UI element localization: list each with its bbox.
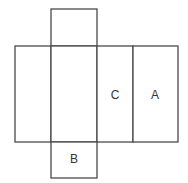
cube-net-diagram: C A B: [0, 0, 188, 183]
label-a: A: [151, 88, 159, 102]
label-c: C: [111, 88, 120, 102]
label-b: B: [70, 152, 78, 166]
face-left: [15, 46, 51, 142]
face-top: [51, 9, 97, 46]
face-center: [51, 46, 97, 142]
